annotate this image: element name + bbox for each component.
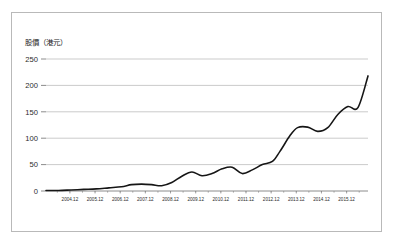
x-axis-tick-label: 2007.12: [137, 197, 154, 202]
y-axis-ticks-group: 050100150200250: [25, 55, 46, 196]
gridlines-group: [46, 59, 368, 165]
x-axis-tick-label: 2005.12: [87, 197, 104, 202]
y-axis-tick-label: 0: [34, 187, 38, 196]
x-axis-ticks-group: 2004.122005.122006.122007.122008.122009.…: [57, 191, 359, 202]
x-axis-tick-label: 2006.12: [112, 197, 129, 202]
y-axis-tick-label: 100: [25, 134, 38, 143]
x-axis-tick-label: 2008.12: [162, 197, 179, 202]
x-axis-tick-label: 2015.12: [338, 197, 355, 202]
chart-figure: 股價（港元） 050100150200250 2004.122005.12200…: [0, 0, 395, 246]
x-axis-tick-label: 2009.12: [187, 197, 204, 202]
x-axis-tick-label: 2014.12: [313, 197, 330, 202]
y-axis-tick-label: 200: [25, 81, 38, 90]
y-axis-tick-label: 250: [25, 55, 38, 64]
x-axis-tick-label: 2011.12: [238, 197, 255, 202]
x-axis-tick-label: 2010.12: [213, 197, 230, 202]
x-axis-tick-label: 2004.12: [62, 197, 79, 202]
y-axis-tick-label: 150: [25, 108, 38, 117]
y-axis-tick-label: 50: [30, 160, 38, 169]
price-series-line: [46, 76, 368, 191]
line-chart-plot: 050100150200250 2004.122005.122006.12200…: [0, 0, 395, 246]
x-axis-tick-label: 2012.12: [263, 197, 280, 202]
x-axis-tick-label: 2013.12: [288, 197, 305, 202]
